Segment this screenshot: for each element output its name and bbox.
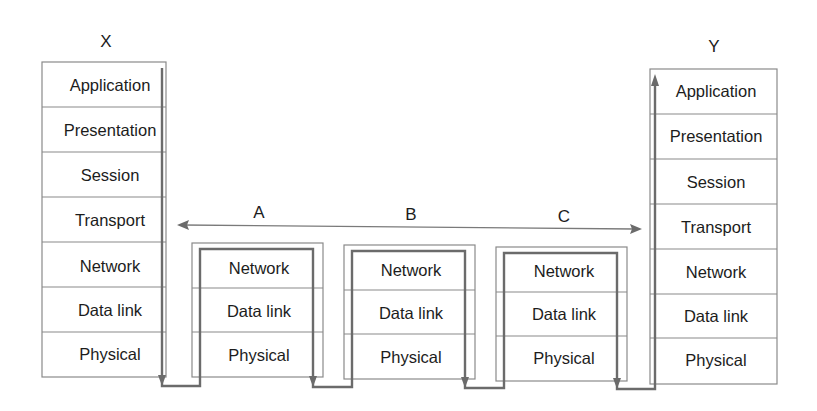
transport-arrow: A B C xyxy=(177,203,642,235)
a-layer-network: Network xyxy=(229,259,290,277)
segment-a-label: A xyxy=(253,203,265,222)
x-layer-network: Network xyxy=(80,257,141,275)
b-layer-data-link: Data link xyxy=(379,304,444,322)
segment-b-label: B xyxy=(405,205,416,224)
c-layer-network: Network xyxy=(534,262,595,280)
node-b: Network Data link Physical xyxy=(344,245,475,379)
node-c: Network Data link Physical xyxy=(496,247,627,381)
y-layer-data-link: Data link xyxy=(684,307,749,325)
x-layer-presentation: Presentation xyxy=(64,121,157,139)
y-layer-physical: Physical xyxy=(685,351,746,369)
x-layer-data-link: Data link xyxy=(78,301,143,319)
arrow-down-icon xyxy=(309,376,317,387)
host-y: Y Application Presentation Session Trans… xyxy=(650,37,777,385)
b-layer-physical: Physical xyxy=(380,348,441,366)
host-x-label: X xyxy=(100,32,111,51)
arrow-down-icon xyxy=(461,377,469,388)
x-layer-application: Application xyxy=(70,76,151,94)
host-y-label: Y xyxy=(708,37,719,56)
y-layer-session: Session xyxy=(687,173,746,191)
a-layer-data-link: Data link xyxy=(227,302,292,320)
osi-diagram: X Application Presentation Session Trans… xyxy=(0,0,817,411)
b-layer-network: Network xyxy=(381,261,442,279)
c-layer-data-link: Data link xyxy=(532,305,597,323)
node-a: Network Data link Physical xyxy=(192,243,323,377)
segment-c-label: C xyxy=(558,207,570,226)
a-layer-physical: Physical xyxy=(228,346,289,364)
x-layer-physical: Physical xyxy=(79,345,140,363)
arrow-down-icon xyxy=(158,375,166,386)
y-layer-network: Network xyxy=(686,263,747,281)
y-layer-presentation: Presentation xyxy=(670,127,763,145)
x-layer-transport: Transport xyxy=(75,211,145,229)
y-layer-transport: Transport xyxy=(681,218,751,236)
arrow-down-icon xyxy=(613,378,621,389)
y-layer-application: Application xyxy=(676,82,757,100)
host-x: X Application Presentation Session Trans… xyxy=(42,32,166,378)
x-layer-session: Session xyxy=(81,166,140,184)
c-layer-physical: Physical xyxy=(533,349,594,367)
